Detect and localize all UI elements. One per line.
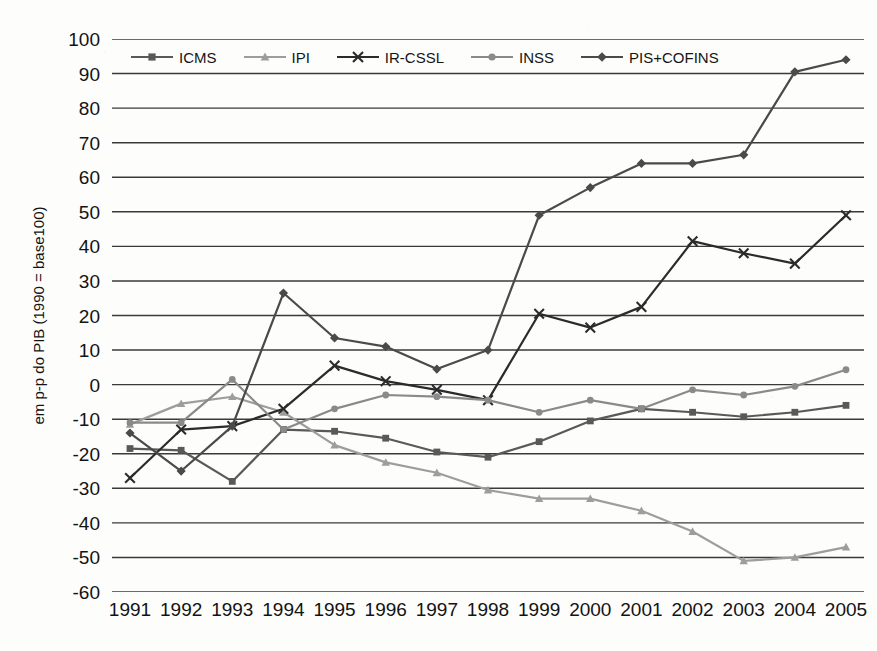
y-tick-label: -60	[44, 583, 100, 602]
legend-item-pis-cofins[interactable]: PIS+COFINS	[580, 50, 719, 65]
y-tick-label: 0	[44, 375, 100, 394]
y-axis-ticks: 1009080706050403020100-10-20-30-40-50-60	[44, 0, 100, 651]
series-line	[130, 60, 846, 471]
x-axis-ticks: 1991199219931994199519961997199819992000…	[112, 600, 864, 630]
data-point-marker	[488, 53, 495, 60]
data-point-marker	[178, 447, 185, 454]
data-point-marker	[280, 426, 287, 433]
data-point-marker	[740, 392, 747, 399]
legend-marker-x-icon	[336, 50, 380, 64]
series-icms	[127, 402, 850, 485]
y-tick-label: -50	[44, 548, 100, 567]
data-point-marker	[791, 409, 798, 416]
legend-label: IPI	[292, 50, 310, 65]
series-pis-cofins	[125, 55, 850, 475]
data-point-marker	[791, 383, 798, 390]
data-point-marker	[483, 345, 492, 354]
data-point-marker	[740, 413, 747, 420]
data-point-marker	[432, 364, 441, 373]
data-point-marker	[597, 52, 607, 62]
y-tick-label: 60	[44, 168, 100, 187]
data-point-marker	[843, 402, 850, 409]
y-tick-label: 70	[44, 133, 100, 152]
data-point-marker	[587, 418, 594, 425]
data-point-marker	[433, 393, 440, 400]
legend-item-inss[interactable]: INSS	[470, 50, 554, 65]
data-point-marker	[638, 405, 645, 412]
legend-marker-diamond-icon	[580, 50, 624, 64]
data-point-marker	[688, 159, 697, 168]
y-tick-label: -10	[44, 410, 100, 429]
x-tick-label: 2005	[816, 600, 876, 619]
series-lines	[112, 39, 864, 592]
data-point-marker	[485, 454, 492, 461]
data-point-marker	[587, 397, 594, 404]
y-tick-label: 30	[44, 271, 100, 290]
legend-label: PIS+COFINS	[629, 50, 719, 65]
data-point-marker	[841, 55, 850, 64]
data-point-marker	[229, 478, 236, 485]
y-tick-label: 50	[44, 202, 100, 221]
data-point-marker	[127, 445, 134, 452]
data-point-marker	[433, 449, 440, 456]
data-point-marker	[637, 159, 646, 168]
data-point-marker	[148, 53, 155, 60]
legend-item-ir-cssl[interactable]: IR-CSSL	[336, 50, 444, 65]
legend-marker-square-icon	[130, 50, 174, 64]
y-tick-label: 100	[44, 30, 100, 49]
data-point-marker	[843, 366, 850, 373]
legend-item-icms[interactable]: ICMS	[130, 50, 217, 65]
y-tick-label: 40	[44, 237, 100, 256]
data-point-marker	[841, 210, 851, 220]
legend-label: INSS	[519, 50, 554, 65]
plot-area	[112, 39, 864, 592]
legend-label: ICMS	[179, 50, 217, 65]
series-line	[130, 405, 846, 481]
data-point-marker	[382, 392, 389, 399]
legend-label: IR-CSSL	[385, 50, 444, 65]
data-point-marker	[536, 438, 543, 445]
y-tick-label: -20	[44, 444, 100, 463]
y-tick-label: -30	[44, 479, 100, 498]
data-point-marker	[331, 405, 338, 412]
data-point-marker	[535, 211, 544, 220]
data-point-marker	[689, 386, 696, 393]
legend-marker-triangle-icon	[243, 50, 287, 64]
legend-marker-circle-icon	[470, 50, 514, 64]
data-point-marker	[485, 397, 492, 404]
data-point-marker	[127, 419, 134, 426]
data-point-marker	[637, 302, 647, 312]
data-point-marker	[586, 183, 595, 192]
y-tick-label: 10	[44, 341, 100, 360]
data-point-marker	[689, 409, 696, 416]
data-point-marker	[382, 435, 389, 442]
y-tick-label: 20	[44, 306, 100, 325]
data-point-marker	[125, 473, 135, 483]
series-line	[130, 397, 846, 561]
y-tick-label: 80	[44, 99, 100, 118]
y-tick-label: -40	[44, 513, 100, 532]
data-point-marker	[381, 342, 390, 351]
chart-legend: ICMSIPIIR-CSSLINSSPIS+COFINS	[130, 46, 719, 68]
legend-item-ipi[interactable]: IPI	[243, 50, 310, 65]
data-point-marker	[178, 419, 185, 426]
line-chart: em p-p do PIB (1990 = base100) 100908070…	[0, 0, 877, 651]
data-point-marker	[331, 428, 338, 435]
data-point-marker	[536, 409, 543, 416]
data-point-marker	[229, 376, 236, 383]
y-tick-label: 90	[44, 64, 100, 83]
